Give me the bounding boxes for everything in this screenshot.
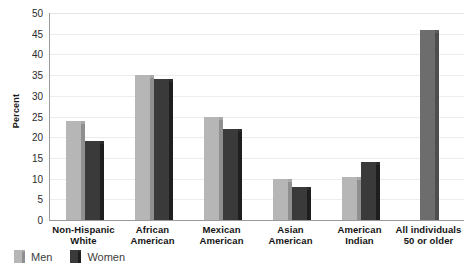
swatch-face [14,250,22,263]
bar-men [66,121,85,220]
bar-men [342,177,361,220]
bar-face [204,117,219,221]
x-axis-label: All individuals50 or older [394,224,463,246]
bar-face [85,141,100,220]
bar-side [307,190,311,220]
bar-side [238,132,242,220]
bar-side [169,82,173,220]
x-axis-label-line: African [118,224,187,235]
bar-men [204,117,223,221]
bar-side [376,165,380,220]
x-axis-label-line: 50 or older [394,235,463,246]
legend-item-women[interactable]: Women [70,250,125,263]
legend-swatch-icon [14,250,25,263]
x-axis-label-line: Mexican [187,224,256,235]
bar-chart: Percent 50454035302520151050 Non-Hispani… [0,0,471,271]
bar-women [154,79,173,220]
x-axis-label: MexicanAmerican [187,224,256,246]
legend-item-men[interactable]: Men [14,250,52,263]
x-axis-label: Non-HispanicWhite [49,224,118,246]
x-axis-label: AfricanAmerican [118,224,187,246]
bar-men [273,179,292,220]
bar-face [420,30,435,220]
bar-group [326,13,395,220]
legend-swatch-icon [70,250,81,263]
y-axis-tick: 50 [32,8,43,19]
y-axis-tick: 10 [32,173,43,184]
bar-face [223,129,238,220]
bar-face [66,121,81,220]
x-axis-label-line: Non-Hispanic [49,224,118,235]
y-axis-tick-labels: 50454035302520151050 [22,0,46,232]
x-axis-label-line: Asian [256,224,325,235]
x-axis-label-line: American [325,224,394,235]
bar-group [395,13,464,220]
plot-area [49,13,464,221]
x-axis-label-line: White [49,235,118,246]
chart-legend: MenWomen [14,250,125,263]
bar-side [100,144,104,220]
legend-label: Men [31,251,52,263]
bar-group [119,13,188,220]
bar-women [223,129,242,220]
bar-women [292,187,311,220]
y-axis-tick: 5 [37,194,43,205]
bar-face [361,162,376,220]
bar-face [292,187,307,220]
bar-face [154,79,169,220]
x-axis-label-line: American [256,235,325,246]
y-axis-tick: 30 [32,90,43,101]
x-axis-label-line: Indian [325,235,394,246]
bar-groups [50,13,464,220]
y-axis-tick: 40 [32,49,43,60]
swatch-side [22,252,25,263]
x-axis-label-line: All individuals [394,224,463,235]
x-axis-label-line: American [118,235,187,246]
swatch-side [78,252,81,263]
bar-women [85,141,104,220]
y-axis-tick: 15 [32,152,43,163]
bar-group [188,13,257,220]
y-axis-title-label: Percent [11,94,21,128]
legend-label: Women [87,251,125,263]
bar-face [273,179,288,220]
bar-group [257,13,326,220]
x-axis-label: AmericanIndian [325,224,394,246]
bar-women [361,162,380,220]
bar-face [135,75,150,220]
x-axis-category-labels: Non-HispanicWhiteAfricanAmericanMexicanA… [49,224,463,246]
bar-group [50,13,119,220]
bar-face [342,177,357,220]
bar-side [435,33,439,220]
y-axis-tick: 45 [32,28,43,39]
y-axis-tick: 25 [32,111,43,122]
y-axis-tick: 0 [37,215,43,226]
y-axis-tick: 20 [32,132,43,143]
x-axis-label: AsianAmerican [256,224,325,246]
swatch-face [70,250,78,263]
bar-men [135,75,154,220]
y-axis-tick: 35 [32,70,43,81]
x-axis-label-line: American [187,235,256,246]
bar-all [420,30,439,220]
